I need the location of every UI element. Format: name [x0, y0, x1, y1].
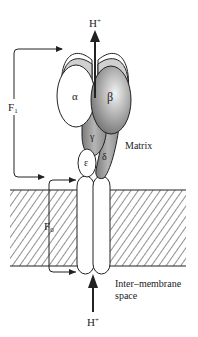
proton-arrow-bottom — [88, 274, 98, 312]
atp-synthase-diagram: H+ α β γ δ ε F1 F0 Matrix Inter–membrane… — [0, 0, 198, 337]
delta-label: δ — [102, 151, 107, 162]
alpha-label: α — [72, 90, 78, 102]
intermembrane-label-line1: Inter–membrane — [115, 278, 182, 289]
f0-stalk — [77, 176, 110, 274]
matrix-label: Matrix — [125, 140, 152, 151]
intermembrane-label-line2: space — [115, 290, 138, 301]
beta-label: β — [107, 90, 113, 104]
epsilon-label: ε — [84, 157, 88, 168]
gamma-label: γ — [89, 131, 95, 142]
proton-top-label: H+ — [89, 17, 101, 29]
proton-bottom-label: H+ — [87, 316, 99, 328]
